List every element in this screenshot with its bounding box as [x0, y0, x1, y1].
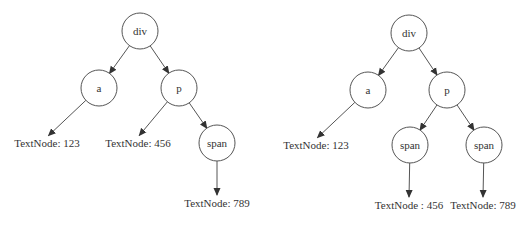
- text-node-label-t456: TextNode : 456: [375, 199, 444, 211]
- node-label: span: [207, 137, 228, 149]
- edge-arrow-p-to-span: [189, 103, 207, 128]
- node-p: p: [161, 70, 197, 106]
- node-a: a: [81, 70, 117, 106]
- node-label: div: [402, 27, 417, 39]
- node-label: a: [366, 84, 371, 96]
- text-node-label-t456: TextNode: 456: [105, 137, 171, 149]
- text-node-label-t789: TextNode: 789: [450, 199, 516, 211]
- node-p: p: [429, 72, 465, 108]
- edge-arrow-div-to-a: [110, 46, 130, 74]
- text-node-label-t123: TextNode: 123: [14, 137, 80, 149]
- node-label: a: [97, 82, 102, 94]
- node-a: a: [350, 72, 386, 108]
- edge-arrow-span2-to-t789: [483, 163, 484, 197]
- edge-arrow-a-to-t123: [318, 102, 355, 137]
- node-label: p: [444, 84, 450, 96]
- edge-arrow-div-to-a: [379, 48, 399, 76]
- tree-before: divapspanTextNode: 123TextNode: 456TextN…: [14, 13, 250, 209]
- text-node-label-t123: TextNode: 123: [283, 139, 349, 151]
- node-label: span: [474, 139, 495, 151]
- node-label: span: [400, 139, 421, 151]
- edge-arrow-a-to-t123: [49, 100, 86, 135]
- edge-arrow-span1-to-t456: [409, 163, 410, 197]
- edge-arrow-p-to-span1: [420, 105, 437, 130]
- dom-tree-diagram: divapspanTextNode: 123TextNode: 456TextN…: [0, 0, 527, 226]
- tree-after: divapspanspanTextNode: 123TextNode : 456…: [283, 15, 516, 211]
- edge-arrow-p-to-span2: [457, 105, 474, 130]
- node-span2: span: [466, 127, 502, 163]
- edge-arrow-div-to-p: [419, 48, 437, 75]
- node-div: div: [391, 15, 427, 51]
- text-node-label-t789: TextNode: 789: [184, 197, 250, 209]
- node-span1: span: [392, 127, 428, 163]
- edge-arrow-div-to-p: [150, 46, 169, 73]
- node-label: div: [133, 25, 148, 37]
- node-div: div: [122, 13, 158, 49]
- figure-caption-bottom: [0, 218, 527, 226]
- edge-arrow-p-to-t456: [139, 102, 167, 136]
- node-span: span: [199, 125, 235, 161]
- node-label: p: [176, 82, 182, 94]
